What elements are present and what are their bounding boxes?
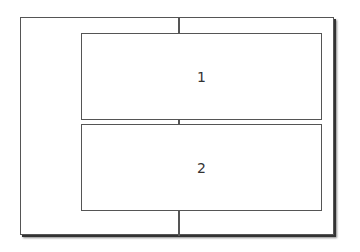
box-2-label: 2 bbox=[197, 160, 206, 176]
connector-bottom bbox=[178, 210, 180, 236]
box-1-label: 1 bbox=[197, 69, 206, 85]
box-1: 1 bbox=[81, 33, 322, 120]
box-2: 2 bbox=[81, 124, 322, 211]
connector-top bbox=[178, 17, 180, 33]
